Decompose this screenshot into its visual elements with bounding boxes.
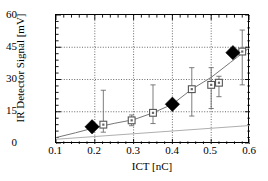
x-tick-label-0.2: 0.2 xyxy=(77,145,111,156)
x-axis-title: ICT [nC] xyxy=(55,160,249,172)
y-tick-label-30: 30 xyxy=(0,73,17,84)
y-tick-label-15: 15 xyxy=(0,105,17,116)
x-tick-label-0.5: 0.5 xyxy=(193,145,227,156)
y-tick-label-0: 0 xyxy=(0,137,17,148)
plot-area xyxy=(55,14,249,143)
y-tick-label-60: 60 xyxy=(0,9,17,20)
data-markers xyxy=(85,45,246,134)
chart-figure: IR Detector Signal [mV] 60 45 30 15 0 0.… xyxy=(0,0,268,181)
x-tick-label-0.1: 0.1 xyxy=(38,145,72,156)
x-tick-label-0.4: 0.4 xyxy=(155,145,189,156)
x-tick-label-0.3: 0.3 xyxy=(116,145,150,156)
y-tick-label-45: 45 xyxy=(0,41,17,52)
x-tick-label-0.6: 0.6 xyxy=(232,145,266,156)
plot-canvas xyxy=(56,15,250,144)
